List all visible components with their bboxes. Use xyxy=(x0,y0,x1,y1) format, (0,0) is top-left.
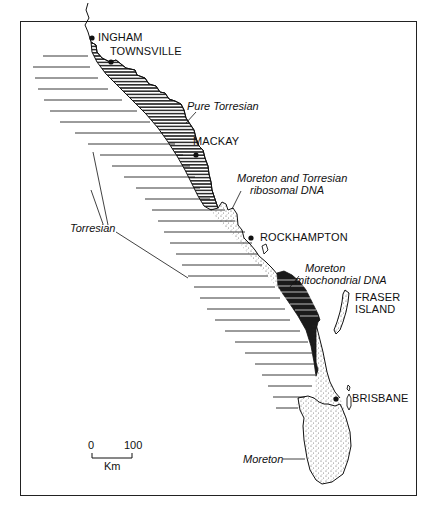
town-dot-ingham xyxy=(89,35,94,40)
label-mitochondrial-line1: Moreton xyxy=(305,262,345,274)
leader-pure-torresian xyxy=(186,112,196,123)
label-ribosomal-line2: ribosomal DNA xyxy=(250,184,324,196)
keppel-island xyxy=(262,244,268,254)
label-brisbane: BRISBANE xyxy=(352,392,408,404)
label-fraser-line2: ISLAND xyxy=(355,303,395,315)
small-island xyxy=(347,385,350,391)
scale-label-hundred: 100 xyxy=(124,439,142,451)
moreton-island xyxy=(347,394,351,410)
label-ribosomal-line1: Moreton and Torresian xyxy=(237,172,347,184)
label-mackay: MACKAY xyxy=(193,135,239,147)
label-townsville: TOWNSVILLE xyxy=(110,45,182,57)
scale-label-unit: Km xyxy=(104,460,121,472)
label-fraser-line1: FRASER xyxy=(355,291,400,303)
label-mitochondrial-line2: mitochondrial DNA xyxy=(295,274,387,286)
town-dot-brisbane xyxy=(333,396,338,401)
scale-label-zero: 0 xyxy=(88,439,94,451)
leader-ribosomal xyxy=(232,191,241,209)
leader-torresian-top xyxy=(93,152,108,225)
town-dot-mackay xyxy=(193,152,198,157)
moreton-mitochondrial-zone xyxy=(277,271,320,376)
leader-torresian-lower xyxy=(116,232,188,278)
label-torresian: Torresian xyxy=(70,222,115,234)
label-pure-torresian: Pure Torresian xyxy=(187,100,259,112)
town-dot-townsville xyxy=(108,59,113,64)
label-moreton: Moreton xyxy=(243,453,283,465)
fraser-island xyxy=(334,290,349,334)
map-canvas xyxy=(0,0,436,516)
label-ingham: INGHAM xyxy=(98,31,143,43)
town-dot-rockhampton xyxy=(248,235,253,240)
label-rockhampton: ROCKHAMPTON xyxy=(260,231,348,243)
scale-bar xyxy=(92,453,132,458)
moreton-zone xyxy=(211,202,351,484)
pure-torresian-zone xyxy=(91,42,218,210)
leader-torresian-upper xyxy=(91,190,103,224)
